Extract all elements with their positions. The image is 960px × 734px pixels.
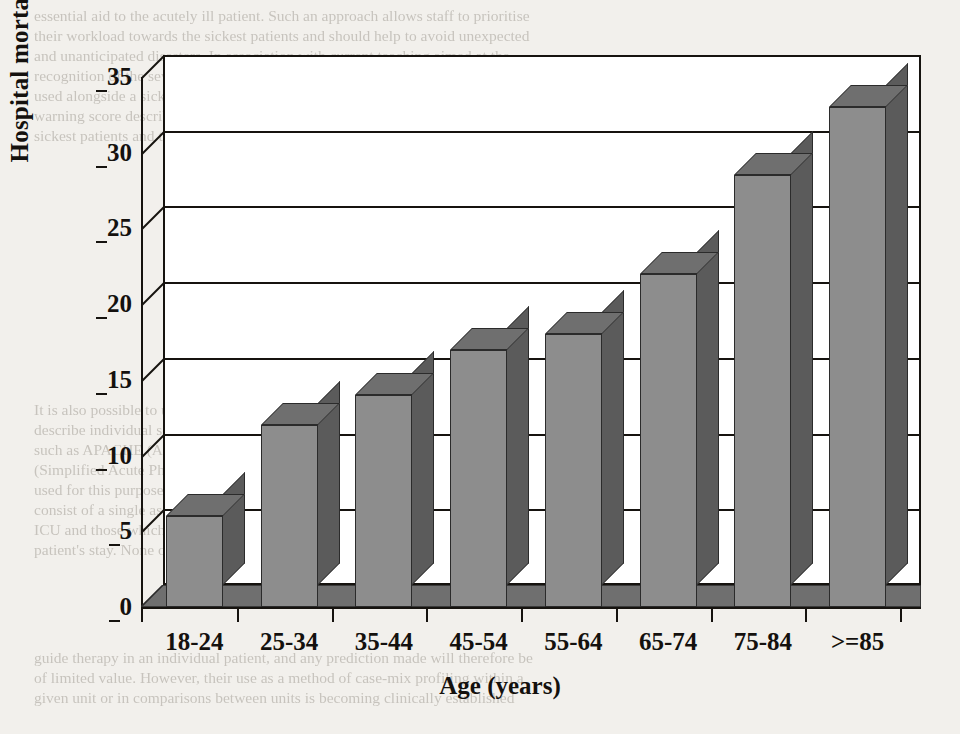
bar-front-face bbox=[640, 274, 697, 607]
x-tick-label: 18-24 bbox=[165, 628, 223, 656]
bar-front-face bbox=[166, 516, 223, 607]
bar-front-face bbox=[450, 350, 507, 607]
y-tick-mark bbox=[96, 90, 107, 92]
bar-front-face bbox=[261, 425, 318, 607]
bar->=85 bbox=[829, 85, 886, 607]
x-tick-mark bbox=[141, 607, 143, 622]
bar-35-44 bbox=[355, 373, 412, 607]
bar-25-34 bbox=[261, 403, 318, 607]
y-tick-label: 35 bbox=[107, 63, 141, 91]
y-tick-mark bbox=[109, 544, 120, 546]
bar-side-face bbox=[507, 306, 529, 585]
y-tick-label: 25 bbox=[107, 214, 141, 242]
bar-side-face bbox=[886, 63, 908, 585]
bar-side-face bbox=[697, 230, 719, 585]
bar-front-face bbox=[545, 334, 602, 607]
y-tick-label: 10 bbox=[107, 442, 141, 470]
x-tick-mark bbox=[332, 607, 334, 622]
bar-chart-figure: Hospital mortality (%) Age (years) 05101… bbox=[0, 0, 960, 734]
bar-front-face bbox=[829, 107, 886, 607]
y-tick-mark bbox=[96, 469, 107, 471]
y-tick-label: 30 bbox=[107, 139, 141, 167]
y-tick-mark bbox=[96, 241, 107, 243]
x-tick-mark bbox=[521, 607, 523, 622]
bar-side-face bbox=[791, 131, 813, 585]
x-tick-label: 65-74 bbox=[639, 628, 697, 656]
bar-front-face bbox=[734, 175, 791, 607]
bar-45-54 bbox=[450, 328, 507, 607]
y-tick-label: 0 bbox=[120, 593, 142, 621]
bar-65-74 bbox=[640, 252, 697, 607]
bar-75-84 bbox=[734, 153, 791, 607]
y-tick-mark bbox=[96, 166, 107, 168]
bar-front-face bbox=[355, 395, 412, 607]
bar-side-face bbox=[223, 472, 245, 585]
y-axis-title: Hospital mortality (%) bbox=[6, 0, 34, 168]
x-tick-label: 35-44 bbox=[355, 628, 413, 656]
y-tick-label: 20 bbox=[107, 290, 141, 318]
x-tick-mark bbox=[805, 607, 807, 622]
y-tick-label: 15 bbox=[107, 366, 141, 394]
x-tick-mark bbox=[900, 607, 902, 622]
x-axis-line bbox=[141, 607, 921, 609]
y-tick-label: 5 bbox=[120, 517, 142, 545]
y-tick-mark bbox=[96, 393, 107, 395]
x-tick-label: >=85 bbox=[831, 628, 885, 656]
x-tick-label: 75-84 bbox=[734, 628, 792, 656]
bar-side-face bbox=[602, 290, 624, 585]
plot-area: 05101520253035 18-2425-3435-4445-5455-64… bbox=[141, 55, 921, 607]
x-tick-mark bbox=[426, 607, 428, 622]
x-tick-label: 25-34 bbox=[260, 628, 318, 656]
y-tick-mark bbox=[96, 317, 107, 319]
x-tick-label: 55-64 bbox=[544, 628, 602, 656]
x-tick-mark bbox=[711, 607, 713, 622]
bar-55-64 bbox=[545, 312, 602, 607]
bar-18-24 bbox=[166, 494, 223, 607]
x-axis-title: Age (years) bbox=[300, 672, 700, 700]
x-tick-mark bbox=[616, 607, 618, 622]
x-tick-mark bbox=[237, 607, 239, 622]
bar-series bbox=[141, 55, 921, 607]
y-tick-mark bbox=[109, 620, 120, 622]
x-tick-label: 45-54 bbox=[449, 628, 507, 656]
